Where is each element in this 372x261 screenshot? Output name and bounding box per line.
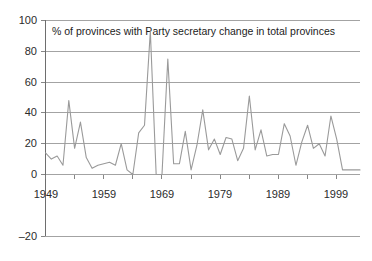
chart-title: % of provinces with Party secretary chan…	[52, 25, 335, 37]
x-tick-label-1959: 1959	[92, 188, 116, 200]
y-tick-label-minus-20: –20	[19, 230, 37, 242]
x-tick-label-1989: 1989	[266, 188, 290, 200]
data-series-line	[46, 31, 361, 174]
gridlines-group	[45, 21, 360, 237]
x-minor-tick-marks	[46, 175, 337, 179]
y-tick-label-80: 80	[25, 45, 37, 57]
x-tick-label-1979: 1979	[208, 188, 232, 200]
chart-container: 100 80 60 40 20 0 –20 1949 1959 1969 197…	[0, 0, 372, 261]
y-tick-label-40: 40	[25, 106, 37, 118]
y-tick-label-20: 20	[25, 137, 37, 149]
y-tick-label-100: 100	[19, 14, 37, 26]
y-tick-label-0: 0	[31, 168, 37, 180]
y-tick-marks	[41, 21, 45, 237]
y-tick-label-60: 60	[25, 76, 37, 88]
x-tick-label-1999: 1999	[324, 188, 348, 200]
x-tick-label-1969: 1969	[150, 188, 174, 200]
x-tick-labels: 1949 1959 1969 1979 1989 1999	[34, 188, 348, 200]
line-chart: 100 80 60 40 20 0 –20 1949 1959 1969 197…	[0, 0, 372, 261]
y-tick-labels: 100 80 60 40 20 0 –20	[19, 14, 37, 242]
x-tick-label-1949: 1949	[34, 188, 58, 200]
